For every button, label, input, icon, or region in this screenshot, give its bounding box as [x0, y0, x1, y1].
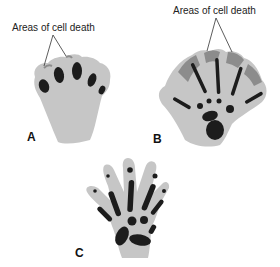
panel-label-c: C [75, 246, 84, 260]
callout-cell-death-b: Areas of cell death [173, 5, 256, 16]
panel-c-hand [86, 158, 169, 258]
panel-label-a: A [27, 130, 36, 144]
limb-development-diagram [0, 0, 280, 267]
panel-label-b: B [153, 132, 162, 146]
panel-b-hand-plate [159, 18, 267, 147]
callout-cell-death-a: Areas of cell death [12, 22, 95, 33]
panel-a-limb-bud [34, 35, 110, 143]
